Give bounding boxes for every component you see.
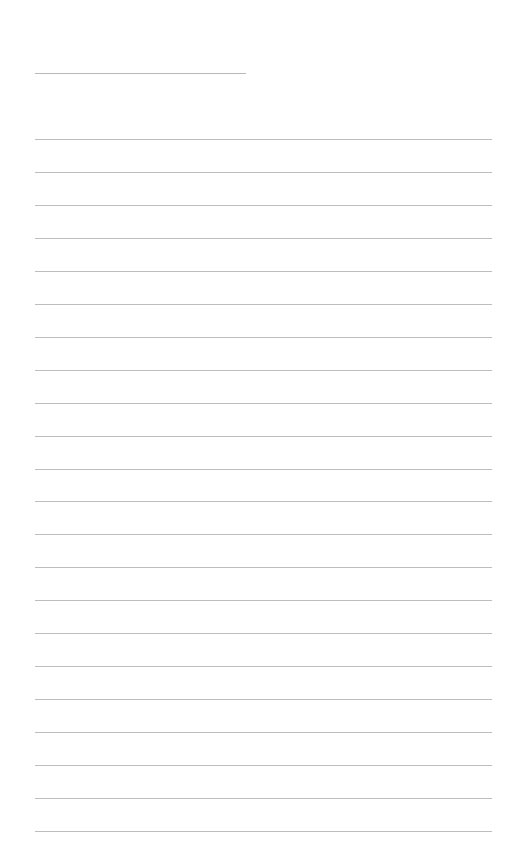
ruled-line <box>35 337 492 338</box>
title-line <box>35 73 246 74</box>
ruled-line <box>35 403 492 404</box>
ruled-line <box>35 501 492 502</box>
ruled-line <box>35 765 492 766</box>
ruled-line <box>35 633 492 634</box>
ruled-line <box>35 205 492 206</box>
ruled-line <box>35 831 492 832</box>
ruled-line <box>35 271 492 272</box>
ruled-line <box>35 567 492 568</box>
ruled-line <box>35 139 492 140</box>
ruled-line <box>35 600 492 601</box>
ruled-line <box>35 304 492 305</box>
ruled-line <box>35 172 492 173</box>
ruled-line <box>35 732 492 733</box>
ruled-line <box>35 469 492 470</box>
lined-paper-page <box>0 0 515 864</box>
ruled-line <box>35 436 492 437</box>
ruled-line <box>35 699 492 700</box>
ruled-line <box>35 534 492 535</box>
ruled-line <box>35 370 492 371</box>
ruled-line <box>35 666 492 667</box>
ruled-line <box>35 798 492 799</box>
ruled-line <box>35 238 492 239</box>
